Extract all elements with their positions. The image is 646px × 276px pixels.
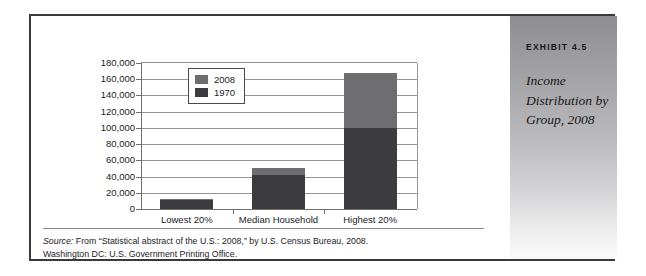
y-axis-tick-mark bbox=[136, 144, 141, 145]
legend-label: 2008 bbox=[214, 75, 235, 85]
x-axis-category-label: Lowest 20% bbox=[141, 214, 233, 225]
x-axis-category-label: Median Household bbox=[233, 214, 325, 225]
y-axis-tick-label: 80,000 bbox=[71, 139, 135, 149]
x-axis-baseline bbox=[141, 209, 417, 210]
y-axis-tick-label: 100,000 bbox=[71, 123, 135, 133]
bar-stack bbox=[252, 168, 305, 209]
y-axis-tick-label: 120,000 bbox=[71, 107, 135, 117]
legend-row: 1970 bbox=[195, 86, 235, 99]
exhibit-page: 180,000160,000140,000120,000100,00080,00… bbox=[0, 0, 646, 276]
y-axis-tick-mark bbox=[136, 209, 141, 210]
y-axis-tick-mark bbox=[136, 177, 141, 178]
bar-segment-1970 bbox=[252, 175, 305, 209]
chart-legend: 20081970 bbox=[188, 68, 245, 104]
y-axis-tick-label: 180,000 bbox=[71, 58, 135, 68]
y-axis-tick-mark bbox=[136, 128, 141, 129]
bar-segment-1970 bbox=[344, 128, 397, 209]
y-axis-tick-label: 0 bbox=[71, 204, 135, 214]
y-axis-tick-mark bbox=[136, 112, 141, 113]
bar-segment-2008 bbox=[344, 73, 397, 128]
x-axis-tick-mark bbox=[233, 209, 234, 214]
exhibit-caption-panel: EXHIBIT 4.5 Income Distribution by Group… bbox=[510, 16, 617, 259]
x-axis-category-label: Highest 20% bbox=[324, 214, 416, 225]
y-axis-tick-label: 60,000 bbox=[71, 155, 135, 165]
y-axis-tick-label: 160,000 bbox=[71, 74, 135, 84]
income-distribution-chart: 180,000160,000140,000120,000100,00080,00… bbox=[31, 16, 510, 259]
legend-color-swatch bbox=[195, 75, 208, 84]
y-axis-tick-mark bbox=[136, 79, 141, 80]
exhibit-title: Income Distribution by Group, 2008 bbox=[526, 71, 610, 130]
source-note: Source: From “Statistical abstract of th… bbox=[43, 235, 495, 260]
bar-segment-1970 bbox=[160, 200, 213, 209]
x-axis-tick-mark bbox=[324, 209, 325, 214]
source-line-2: Washington DC: U.S. Government Printing … bbox=[43, 249, 237, 259]
y-axis-tick-label: 20,000 bbox=[71, 188, 135, 198]
y-axis-tick-mark bbox=[136, 160, 141, 161]
y-axis-tick-mark bbox=[136, 95, 141, 96]
y-axis-tick-labels: 180,000160,000140,000120,000100,00080,00… bbox=[69, 16, 135, 259]
y-axis-tick-mark bbox=[136, 193, 141, 194]
legend-label: 1970 bbox=[214, 88, 235, 98]
source-divider bbox=[43, 228, 484, 229]
bar-stack bbox=[160, 199, 213, 209]
y-axis-tick-mark bbox=[136, 63, 141, 64]
source-label: Source: bbox=[43, 236, 73, 246]
exhibit-number: EXHIBIT 4.5 bbox=[526, 42, 617, 52]
source-line-1: From “Statistical abstract of the U.S.: … bbox=[73, 236, 368, 246]
bar-stack bbox=[344, 73, 397, 209]
exhibit-frame: 180,000160,000140,000120,000100,00080,00… bbox=[29, 14, 615, 261]
y-axis-tick-label: 40,000 bbox=[71, 172, 135, 182]
legend-row: 2008 bbox=[195, 73, 235, 86]
legend-color-swatch bbox=[195, 88, 208, 97]
y-axis-tick-label: 140,000 bbox=[71, 90, 135, 100]
